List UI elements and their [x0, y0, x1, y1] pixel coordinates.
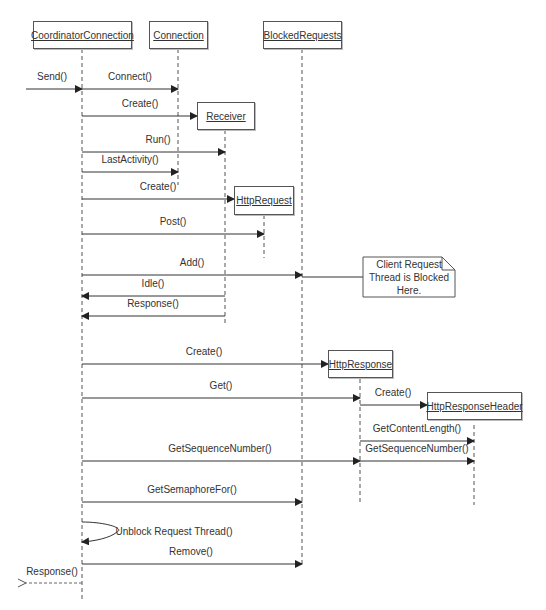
message-idle: Idle() — [142, 278, 165, 289]
object-blocked-requests: BlockedRequests — [263, 21, 342, 49]
object-http-request: HttpRequest — [234, 186, 294, 215]
message-remove: Remove() — [169, 546, 213, 557]
message-last-activity: LastActivity() — [101, 154, 158, 165]
message-unblock-request-thread: Unblock Request Thread() — [115, 526, 232, 537]
object-coordinator-connection: CoordinatorConnection — [33, 21, 132, 49]
message-create-http-request: Create() — [140, 181, 177, 192]
object-receiver: Receiver — [197, 102, 255, 130]
message-get-content-length: GetContentLength() — [373, 423, 461, 434]
message-send: Send() — [37, 71, 67, 82]
message-response-return: Response() — [26, 566, 78, 577]
message-create-receiver: Create() — [122, 98, 159, 109]
message-add: Add() — [180, 257, 204, 268]
note-line-2: Thread is Blocked Here. — [363, 271, 455, 297]
note-blocked-thread: Client Request Thread is Blocked Here. — [363, 257, 455, 297]
object-connection: Connection — [149, 21, 208, 49]
message-connect: Connect() — [108, 71, 152, 82]
message-get-sequence-number-header: GetSequenceNumber() — [365, 443, 468, 454]
object-http-response-header: HttpResponseHeader — [427, 392, 522, 420]
message-run: Run() — [145, 134, 170, 145]
note-line-1: Client Request — [376, 258, 442, 271]
sequence-diagram-canvas — [0, 0, 546, 610]
object-http-response: HttpResponse — [328, 350, 393, 378]
message-get-semaphore-for: GetSemaphoreFor() — [147, 484, 236, 495]
message-create-header: Create() — [375, 387, 412, 398]
message-get-sequence-number: GetSequenceNumber() — [168, 443, 271, 454]
message-post: Post() — [160, 216, 187, 227]
message-create-http-response: Create() — [186, 346, 223, 357]
message-get: Get() — [210, 380, 233, 391]
message-response-receiver: Response() — [127, 298, 179, 309]
